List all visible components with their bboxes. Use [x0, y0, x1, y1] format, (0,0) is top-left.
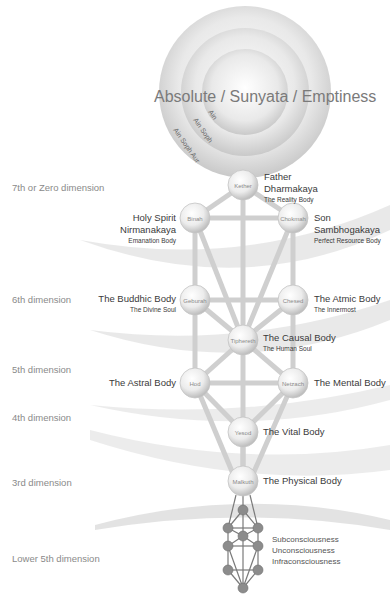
- svg-text:Netzach: Netzach: [282, 381, 304, 387]
- chesed-label: The Atmic Body The Innermost: [314, 293, 381, 314]
- chokmah-note: Perfect Resource Body: [314, 236, 381, 245]
- dimension-label-lower-5th: Lower 5th dimension: [12, 553, 100, 564]
- sephira-kether: Kether: [228, 170, 258, 200]
- sephira-tiphereth: Tiphereth: [228, 325, 258, 355]
- dimension-label-3rd: 3rd dimension: [12, 477, 72, 488]
- binah-note: Emanation Body: [120, 236, 176, 245]
- kether-subtitle: Dharmakaya: [264, 183, 318, 195]
- netzach-title: The Mental Body: [314, 377, 386, 389]
- chokmah-title: Son: [314, 212, 381, 224]
- geburah-note: The Divine Soul: [98, 305, 176, 314]
- sephira-netzach: Netzach: [278, 368, 308, 398]
- hod-title: The Astral Body: [109, 377, 176, 389]
- dimension-label-6th: 6th dimension: [12, 294, 71, 305]
- unconsciousness-label: Unconsciousness: [272, 545, 340, 556]
- chokmah-label: Son Sambhogakaya Perfect Resource Body: [314, 212, 381, 245]
- svg-text:Chokmah: Chokmah: [280, 216, 306, 222]
- chokmah-subtitle: Sambhogakaya: [314, 224, 381, 236]
- svg-text:Kether: Kether: [234, 183, 252, 189]
- dimension-label-4th: 4th dimension: [12, 412, 71, 423]
- sephira-hod: Hod: [180, 368, 210, 398]
- sephira-binah: Binah: [180, 203, 210, 233]
- geburah-title: The Buddhic Body: [98, 293, 176, 305]
- infraconsciousness-label: Infraconsciousness: [272, 556, 340, 567]
- sephira-chesed: Chesed: [278, 285, 308, 315]
- yesod-title: The Vital Body: [263, 426, 325, 438]
- svg-text:Binah: Binah: [187, 216, 202, 222]
- tiphereth-label: The Causal Body The Human Soul: [263, 332, 336, 353]
- kether-title: Father: [264, 171, 318, 183]
- sephira-geburah: Geburah: [180, 285, 210, 315]
- svg-text:Chesed: Chesed: [283, 298, 304, 304]
- svg-text:Yesod: Yesod: [235, 430, 251, 436]
- geburah-label: The Buddhic Body The Divine Soul: [98, 293, 176, 314]
- malkuth-title: The Physical Body: [263, 475, 342, 487]
- tiphereth-note: The Human Soul: [263, 344, 336, 353]
- malkuth-label: The Physical Body: [263, 475, 342, 487]
- kether-note: The Reality Body: [264, 195, 318, 204]
- sephira-malkuth: Malkuth: [228, 466, 258, 496]
- chesed-note: The Innermost: [314, 305, 381, 314]
- kether-label: Father Dharmakaya The Reality Body: [264, 171, 318, 204]
- hod-label: The Astral Body: [109, 377, 176, 389]
- dimension-label-7th: 7th or Zero dimension: [12, 182, 104, 193]
- sephira-yesod: Yesod: [228, 417, 258, 447]
- binah-label: Holy Spirit Nirmanakaya Emanation Body: [120, 212, 176, 245]
- subconsciousness-label: Subconsciousness: [272, 534, 340, 545]
- sephira-chokmah: Chokmah: [278, 203, 308, 233]
- diagram-title: Absolute / Sunyata / Emptiness: [154, 88, 376, 106]
- svg-text:Tiphereth: Tiphereth: [230, 338, 255, 344]
- lower-consciousness-labels: Subconsciousness Unconsciousness Infraco…: [272, 534, 340, 567]
- netzach-label: The Mental Body: [314, 377, 386, 389]
- svg-text:Malkuth: Malkuth: [232, 479, 253, 485]
- svg-text:Hod: Hod: [189, 381, 200, 387]
- binah-subtitle: Nirmanakaya: [120, 224, 176, 236]
- tree-of-life-diagram: Ain Ain Soph Ain Soph Aur: [0, 0, 390, 602]
- tiphereth-title: The Causal Body: [263, 332, 336, 344]
- dimension-label-5th: 5th dimension: [12, 364, 71, 375]
- binah-title: Holy Spirit: [120, 212, 176, 224]
- svg-text:Geburah: Geburah: [183, 298, 206, 304]
- chesed-title: The Atmic Body: [314, 293, 381, 305]
- yesod-label: The Vital Body: [263, 426, 325, 438]
